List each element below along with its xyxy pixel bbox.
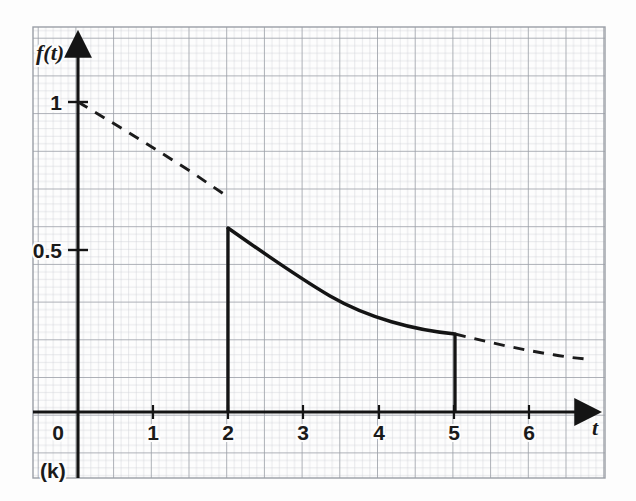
panel-label: (k): [40, 459, 66, 482]
figure-panel: f(t) t 1 0.5 0 1 2 3 4 5 6 (k): [0, 0, 636, 501]
graph-paper-grid: [33, 27, 605, 478]
xtick-label-1: 1: [147, 421, 159, 444]
xtick-label-6: 6: [523, 421, 535, 444]
graph-canvas: f(t) t 1 0.5 0 1 2 3 4 5 6 (k): [0, 0, 636, 501]
ytick-label-0-5: 0.5: [33, 239, 63, 262]
xtick-label-5: 5: [448, 421, 460, 444]
xtick-label-3: 3: [297, 421, 309, 444]
x-axis-label: t: [592, 415, 599, 440]
xtick-label-2: 2: [222, 421, 234, 444]
ytick-label-1: 1: [50, 91, 62, 114]
xtick-label-4: 4: [373, 421, 385, 444]
xtick-label-0: 0: [52, 421, 64, 444]
y-axis-label: f(t): [36, 40, 64, 65]
